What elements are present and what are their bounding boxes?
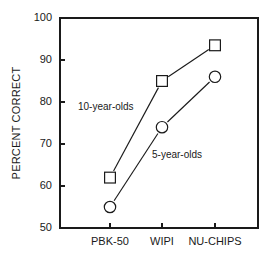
percent-correct-line-chart: 5060708090100 PBK-50WIPINU-CHIPS 10-year… bbox=[0, 0, 276, 264]
data-point-5-year-olds-WIPI bbox=[156, 122, 167, 133]
y-tick-label-50: 50 bbox=[40, 221, 52, 233]
data-point-10-year-olds-NU-CHIPS bbox=[210, 40, 221, 51]
data-point-5-year-olds-NU-CHIPS bbox=[209, 71, 220, 82]
x-tick-label-0: PBK-50 bbox=[91, 235, 129, 247]
annotation-10-year-olds: 10-year-olds bbox=[78, 101, 134, 112]
annotation-5-year-olds: 5-year-olds bbox=[152, 149, 202, 160]
y-tick-label-70: 70 bbox=[40, 137, 52, 149]
y-tick-label-80: 80 bbox=[40, 95, 52, 107]
chart-container: 5060708090100 PBK-50WIPINU-CHIPS 10-year… bbox=[0, 0, 276, 264]
y-tick-label-100: 100 bbox=[34, 11, 52, 23]
y-axis-title-text: PERCENT CORRECT bbox=[10, 67, 22, 180]
y-axis-title: PERCENT CORRECT bbox=[10, 67, 22, 180]
data-point-10-year-olds-WIPI bbox=[157, 76, 168, 87]
data-point-5-year-olds-PBK-50 bbox=[104, 201, 115, 212]
y-tick-label-90: 90 bbox=[40, 53, 52, 65]
x-tick-label-2: NU-CHIPS bbox=[188, 235, 241, 247]
x-tick-label-1: WIPI bbox=[150, 235, 174, 247]
y-tick-label-60: 60 bbox=[40, 179, 52, 191]
x-axis-tick-labels: PBK-50WIPINU-CHIPS bbox=[91, 235, 242, 247]
data-point-10-year-olds-PBK-50 bbox=[105, 172, 116, 183]
